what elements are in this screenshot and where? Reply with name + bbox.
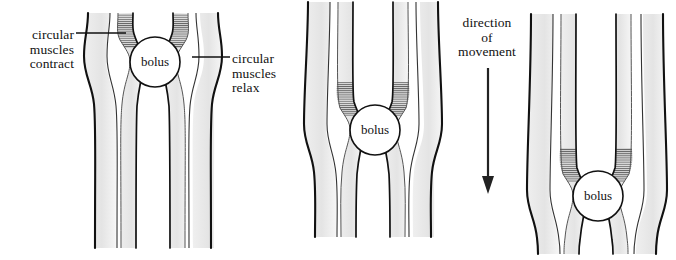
panel-2-outer-left-wall xyxy=(304,2,336,237)
direction-of-movement-arrow xyxy=(482,68,494,194)
label-relax-line1: circular xyxy=(232,52,312,67)
panel-2-bolus-label: bolus xyxy=(361,122,389,138)
label-relax-line3: relax xyxy=(232,81,312,96)
label-contract-line2: muscles xyxy=(4,43,74,58)
panel-1-outer-left-wall xyxy=(84,13,116,248)
label-contract-line3: contract xyxy=(4,57,74,72)
label-relax-line2: muscles xyxy=(232,67,312,82)
label-direction-of-movement: direction of movement xyxy=(416,16,558,60)
label-circular-muscles-contract: circular muscles contract xyxy=(4,28,74,72)
diagram-root: circular muscles contract circular muscl… xyxy=(0,0,676,260)
peristalsis-diagram xyxy=(0,0,676,260)
label-circular-muscles-relax: circular muscles relax xyxy=(232,52,312,96)
label-direction-line3: movement xyxy=(416,45,558,60)
panel-1-outer-right-wall xyxy=(193,13,222,248)
label-contract-line1: circular xyxy=(4,28,74,43)
panel-1-bolus-label: bolus xyxy=(141,54,169,70)
label-direction-line1: direction xyxy=(416,16,558,31)
panel-1-tube xyxy=(84,13,222,248)
panel-3-bolus-label: bolus xyxy=(584,188,612,204)
panel-3-inner-left-wall xyxy=(561,14,587,254)
label-direction-line2: of xyxy=(416,31,558,46)
